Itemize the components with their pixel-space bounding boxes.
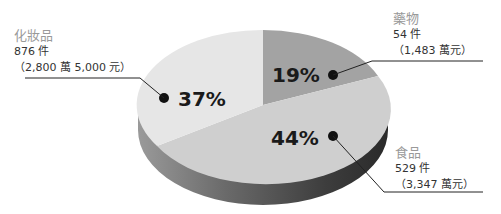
label-amount: （2,800 萬 5,000 元） xyxy=(14,60,131,76)
label-name: 藥物 xyxy=(393,10,472,27)
pct-food: 44% xyxy=(271,126,319,150)
label-count: 54 件 xyxy=(393,27,472,43)
label-food: 食品 529 件 （3,347 萬元） xyxy=(395,144,474,193)
label-name: 化妝品 xyxy=(14,27,131,44)
pct-cosmetics: 37% xyxy=(178,87,226,111)
label-name: 食品 xyxy=(395,144,474,161)
pct-medicine: 19% xyxy=(272,63,320,87)
label-count: 876 件 xyxy=(14,44,131,60)
label-cosmetics: 化妝品 876 件 （2,800 萬 5,000 元） xyxy=(14,27,131,76)
label-medicine: 藥物 54 件 （1,483 萬元） xyxy=(393,10,472,59)
label-amount: （3,347 萬元） xyxy=(395,177,474,193)
label-amount: （1,483 萬元） xyxy=(393,43,472,59)
label-count: 529 件 xyxy=(395,161,474,177)
